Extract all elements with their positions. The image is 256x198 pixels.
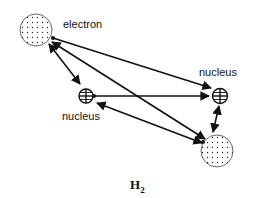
nucleus-1-icon — [79, 89, 93, 103]
edge-nucleus2-electron2 — [213, 106, 219, 132]
nucleus-2-icon — [213, 89, 228, 104]
electron-1-label: electron — [63, 19, 102, 30]
nucleus-1-label: nucleus — [62, 111, 100, 122]
caption-main: H — [130, 177, 140, 192]
edge-nucleus1-electron2 — [97, 103, 202, 143]
electron-2-icon — [201, 135, 233, 167]
h2-interaction-diagram — [0, 0, 256, 198]
edge-electron1-electron2 — [52, 42, 205, 139]
electron-1-icon — [20, 14, 52, 46]
diagram-caption: H2 — [130, 178, 145, 195]
caption-subscript: 2 — [140, 185, 145, 195]
interaction-lines — [49, 38, 219, 143]
nucleus-2-label: nucleus — [199, 67, 237, 78]
